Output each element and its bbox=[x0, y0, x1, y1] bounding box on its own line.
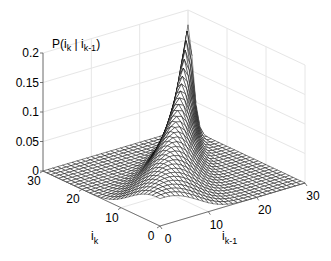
x-axis-label: ik-1 bbox=[222, 229, 237, 246]
svg-text:0.2: 0.2 bbox=[22, 46, 39, 60]
svg-text:0.1: 0.1 bbox=[22, 105, 39, 119]
svg-text:0.15: 0.15 bbox=[16, 76, 40, 90]
svg-text:30: 30 bbox=[27, 174, 41, 188]
z-axis-ticks: 00.050.10.150.2 bbox=[16, 46, 43, 178]
svg-text:10: 10 bbox=[105, 211, 119, 225]
svg-text:20: 20 bbox=[66, 192, 80, 206]
surface-plot: 00.050.10.150.2 0102030 0102030 P(ik | i… bbox=[0, 0, 331, 261]
svg-text:0: 0 bbox=[165, 232, 172, 246]
z-axis-label: P(ik | ik-1) bbox=[52, 37, 100, 53]
svg-text:20: 20 bbox=[258, 203, 272, 217]
y-axis-label: ik bbox=[91, 229, 99, 246]
svg-text:30: 30 bbox=[306, 189, 320, 203]
svg-text:0: 0 bbox=[148, 229, 155, 243]
svg-text:0.05: 0.05 bbox=[16, 135, 40, 149]
